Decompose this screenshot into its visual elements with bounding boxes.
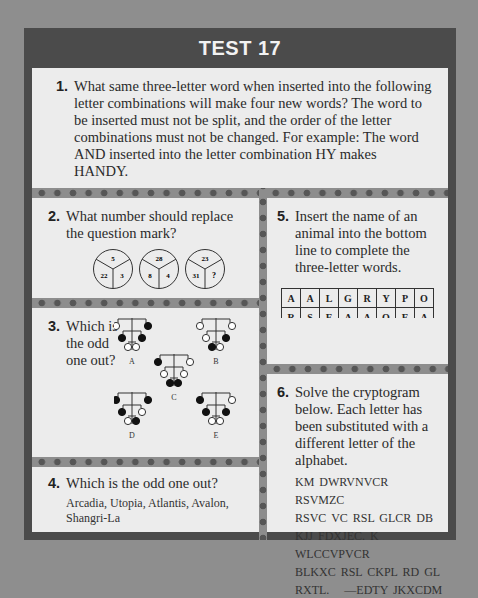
cryptogram-line: RXTL. —EDTY JKXCDM	[295, 581, 442, 598]
answer-options: Arcadia, Utopia, Atlantis, Avalon, Shang…	[66, 496, 229, 526]
question-4: 4.Which is the odd one out?	[48, 475, 249, 492]
odd-one-out-figures: A B C	[114, 314, 254, 446]
question-5: 5.Insert the name of an animal into the …	[277, 208, 440, 276]
question-text: What number should replace the question …	[66, 208, 233, 241]
cryptogram-line: KJJ FDXJEC. K WLCCVPVCR	[295, 527, 442, 563]
figure-label: E	[214, 431, 219, 440]
circle-value: 31	[193, 272, 201, 280]
question-text: Solve the cryptogram below. Each letter …	[295, 384, 428, 468]
circle-value: 22	[101, 272, 109, 280]
question-text: Insert the name of an animal into the bo…	[295, 208, 427, 275]
circle-value: 28	[156, 255, 164, 263]
dotted-divider	[32, 298, 259, 308]
grid-cell: G	[339, 289, 358, 308]
question-1-panel: 1.What same three-letter word when inser…	[32, 68, 448, 188]
circle-value: 4	[166, 272, 170, 280]
grid-cell: P	[396, 289, 415, 308]
grid-cell: A	[301, 289, 320, 308]
figure-label: A	[129, 357, 135, 366]
question-number: 2.	[48, 208, 66, 225]
question-4-panel: 4.Which is the odd one out? Arcadia, Uto…	[32, 467, 259, 532]
question-2: 2.What number should replace the questio…	[48, 208, 249, 242]
cryptogram-line: KM DWRVNVCR RSVMZC	[295, 473, 442, 509]
circle-value: 5	[111, 255, 115, 263]
figure-c: C	[154, 354, 193, 402]
figure-e: E	[196, 392, 235, 440]
page-title: TEST 17	[24, 28, 456, 68]
grid-cell: L	[320, 289, 339, 308]
figure-label: C	[171, 393, 176, 402]
grid-row-top: A A L G R Y P O	[282, 289, 434, 308]
figure-a: A	[114, 318, 152, 366]
cryptogram-line: BLKXC RSL CKPL RD GL	[295, 563, 442, 581]
figure-label: B	[213, 357, 218, 366]
circle-value: 8	[148, 272, 152, 280]
grid-cell: Y	[377, 289, 396, 308]
question-text: What same three-letter word when inserte…	[74, 78, 432, 179]
question-number: 3.	[48, 318, 66, 335]
figure-d: D	[114, 392, 152, 440]
circle-diagram: 28 8 4	[138, 248, 180, 290]
question-6-panel: 6.Solve the cryptogram below. Each lette…	[267, 374, 448, 532]
dotted-divider	[267, 364, 448, 374]
dotted-divider	[32, 457, 259, 467]
dotted-divider-vertical	[259, 188, 267, 540]
test-frame: TEST 17 1.What same three-letter word wh…	[24, 28, 456, 540]
figure-label: D	[129, 431, 135, 440]
grid-cell: R	[358, 289, 377, 308]
question-2-panel: 2.What number should replace the questio…	[32, 198, 259, 298]
question-text: Which is the odd one out?	[66, 318, 118, 368]
question-1: 1.What same three-letter word when inser…	[56, 78, 434, 180]
circle-value: 3	[120, 272, 124, 280]
cryptogram: KM DWRVNVCR RSVMZC RSVC VC RSL GLCR DB K…	[295, 473, 442, 598]
grid-cell: O	[415, 289, 434, 308]
question-3-panel: 3.Which is the odd one out?	[32, 308, 259, 457]
question-number: 1.	[56, 78, 74, 95]
question-number: 4.	[48, 475, 66, 492]
question-6: 6.Solve the cryptogram below. Each lette…	[277, 384, 442, 469]
question-text: Which is the odd one out?	[66, 475, 218, 491]
figure-b: B	[196, 318, 235, 366]
circle-diagram: 23 31 ?	[184, 248, 226, 290]
circle-value: ?	[212, 271, 216, 280]
panel-5-spacer	[267, 318, 448, 364]
dotted-divider	[32, 188, 448, 198]
circle-value: 23	[202, 255, 210, 263]
question-5-panel: 5.Insert the name of an animal into the …	[267, 198, 448, 318]
question-number: 6.	[277, 384, 295, 401]
cryptogram-line: RSVC VC RSL GLCR DB	[295, 509, 442, 527]
grid-cell: A	[282, 289, 301, 308]
number-circles: 5 22 3 28 8 4 23 31 ?	[92, 248, 249, 290]
circle-diagram: 5 22 3	[92, 248, 134, 290]
question-number: 5.	[277, 208, 295, 225]
